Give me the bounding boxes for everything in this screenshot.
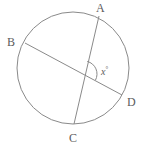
circle-outline xyxy=(17,12,129,124)
vertex-label-d: D xyxy=(127,96,136,108)
vertex-label-a: A xyxy=(96,2,105,14)
vertex-label-c: C xyxy=(69,132,77,144)
circle-chords-drawing xyxy=(0,0,147,148)
chord-ac xyxy=(74,16,99,124)
geometry-figure: A B C D x° xyxy=(0,0,147,148)
angle-label-x-degrees: x° xyxy=(101,64,108,77)
degree-symbol: ° xyxy=(105,65,108,73)
vertex-label-b: B xyxy=(7,36,15,48)
